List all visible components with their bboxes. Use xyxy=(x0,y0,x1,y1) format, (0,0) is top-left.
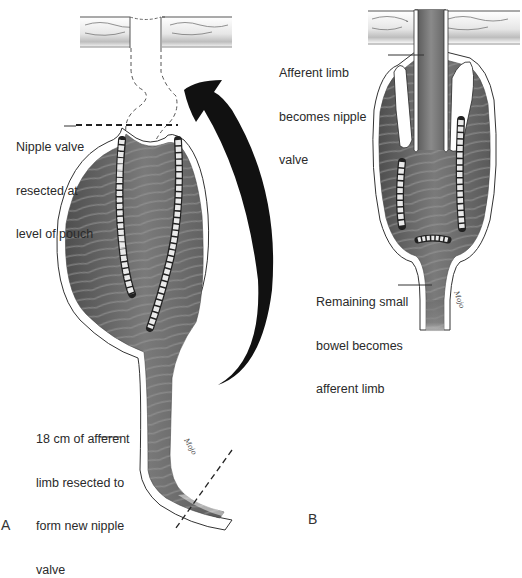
label-line: level of pouch xyxy=(16,227,93,242)
label-line: valve xyxy=(279,153,367,168)
staple-line-b-left xyxy=(400,162,402,226)
label-remaining-small-bowel: Remaining small bowel becomes afferent l… xyxy=(316,266,408,411)
label-line: afferent limb xyxy=(316,382,408,397)
svg-text:Mojo: Mojo xyxy=(182,436,198,456)
label-line: Remaining small xyxy=(316,295,408,310)
abdominal-wall-a xyxy=(80,16,232,49)
label-line: Nipple valve xyxy=(16,140,93,155)
label-line: form new nipple xyxy=(36,519,130,534)
label-line: resected at xyxy=(16,184,93,199)
staple-line-b-bottom xyxy=(418,238,448,240)
panel-letter-b: B xyxy=(308,511,317,527)
label-afferent-becomes-nipple: Afferent limb becomes nipple valve xyxy=(279,37,367,182)
label-line: Afferent limb xyxy=(279,66,367,81)
label-line: becomes nipple xyxy=(279,110,367,125)
label-line: limb resected to xyxy=(36,476,130,491)
label-line: valve xyxy=(36,563,130,578)
panel-letter-a: A xyxy=(1,517,10,533)
label-afferent-limb-resected: 18 cm of afferent limb resected to form … xyxy=(36,403,130,578)
resected-valve-outline xyxy=(126,48,177,140)
label-line: bowel becomes xyxy=(316,339,408,354)
svg-text:Mojo: Mojo xyxy=(452,289,466,309)
staple-line-b-right xyxy=(460,120,462,228)
label-line: 18 cm of afferent xyxy=(36,432,130,447)
nipple-valve-b xyxy=(418,10,444,150)
label-nipple-valve-resected: Nipple valve resected at level of pouch xyxy=(16,111,93,256)
